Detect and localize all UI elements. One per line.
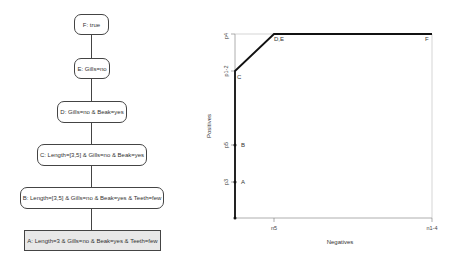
point-b [234, 144, 237, 147]
point-label-c: C [237, 74, 242, 80]
point-label-a: A [241, 179, 245, 185]
y-tick-p3: p3 [223, 179, 229, 185]
point-label-b: B [241, 142, 245, 148]
point-label-de: D,E [274, 36, 284, 42]
coverage-path [235, 34, 432, 218]
y-tick-p4: p4 [223, 33, 229, 39]
y-axis-label: Positives [206, 114, 212, 138]
y-tick-p5: p5 [223, 142, 229, 148]
x-tick-n1-4: n1-4 [426, 225, 437, 231]
point-a [234, 181, 237, 184]
point-origin [234, 217, 237, 220]
point-label-f: F [425, 36, 429, 42]
x-axis-label: Negatives [327, 239, 354, 245]
x-tick-n5: n5 [271, 225, 277, 231]
y-tick-p1-2: p1-2 [223, 65, 229, 76]
coverage-chart: p4 p1-2 p5 p3 n5 n1-4 Negatives Positive… [0, 0, 457, 264]
